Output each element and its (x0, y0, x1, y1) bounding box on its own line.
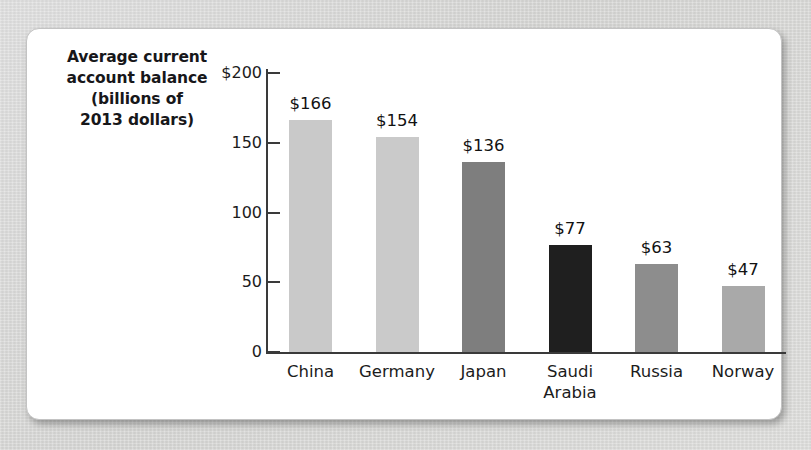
x-axis-category-label: Germany (354, 361, 441, 382)
chart-card: Average currentaccount balance(billions … (26, 28, 782, 420)
bar (376, 137, 419, 352)
x-axis-category-label-line: Arabia (527, 382, 614, 403)
y-axis-tick-label: 100 (202, 203, 262, 222)
bar-value-label: $77 (531, 219, 610, 238)
y-axis-tick-label: $200 (202, 63, 262, 82)
bar-value-label: $154 (358, 111, 437, 130)
x-axis-category-label: Russia (613, 361, 700, 382)
bar-value-label: $47 (704, 260, 783, 279)
bar (549, 245, 592, 352)
x-axis-category-label: SaudiArabia (527, 361, 614, 403)
x-axis-category-label-line: Saudi (527, 361, 614, 382)
bar (462, 162, 505, 352)
y-axis-tick-label: 150 (202, 133, 262, 152)
bar (289, 120, 332, 352)
bar-value-label: $136 (444, 136, 523, 155)
plot-area: 050100150$200 $166China$154Germany$136Ja… (27, 29, 781, 419)
x-axis-category-label-line: China (267, 361, 354, 382)
x-axis-category-label-line: Russia (613, 361, 700, 382)
x-axis-category-label: China (267, 361, 354, 382)
y-axis-tick-label: 50 (202, 272, 262, 291)
bar (722, 286, 765, 352)
x-axis-category-label-line: Japan (440, 361, 527, 382)
y-axis-tick-mark (268, 212, 280, 214)
y-axis-tick-mark (268, 281, 280, 283)
y-axis-tick-mark (268, 142, 280, 144)
bar-value-label: $166 (271, 94, 350, 113)
x-axis-category-label-line: Germany (354, 361, 441, 382)
y-axis-tick-mark (268, 351, 280, 353)
x-axis-category-label: Norway (700, 361, 787, 382)
x-axis-line (266, 352, 786, 354)
bar-value-label: $63 (617, 238, 696, 257)
x-axis-category-label-line: Norway (700, 361, 787, 382)
y-axis-tick-label: 0 (202, 342, 262, 361)
x-axis-category-label: Japan (440, 361, 527, 382)
bar (635, 264, 678, 352)
y-axis-tick-mark (268, 72, 280, 74)
